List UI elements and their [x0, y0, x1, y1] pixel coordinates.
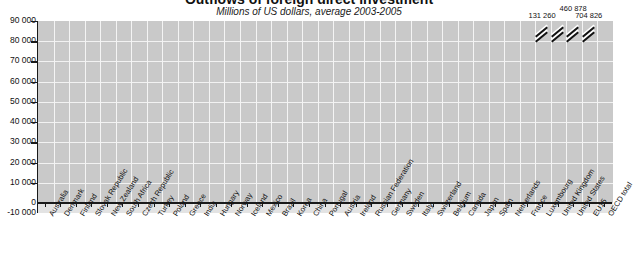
axis-break-marker	[565, 26, 581, 40]
axis-break-marker	[550, 26, 566, 40]
bar-value-label: 704 826	[569, 11, 609, 20]
x-axis-labels: AustraliaDenmarkFinlandSlovak RepublicNe…	[0, 213, 618, 277]
x-axis-tick-mark	[45, 203, 46, 207]
bar-series	[37, 21, 612, 213]
axis-break-marker	[534, 26, 550, 40]
y-axis-tick-label: 0	[7, 198, 36, 207]
axis-break-marker	[581, 26, 597, 40]
